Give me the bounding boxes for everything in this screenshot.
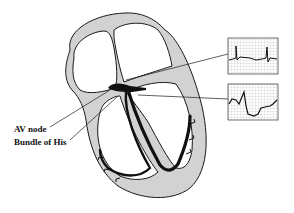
heart-wall: [66, 13, 206, 198]
heart-diagram: AV node Bundle of His: [0, 0, 294, 213]
bundle-of-his-label: Bundle of His: [14, 137, 67, 147]
upper-ecg-panel: [228, 38, 278, 74]
lower-ecg-panel: [228, 84, 278, 120]
av-node-label: AV node: [14, 124, 46, 134]
heart-illustration: [0, 0, 294, 213]
